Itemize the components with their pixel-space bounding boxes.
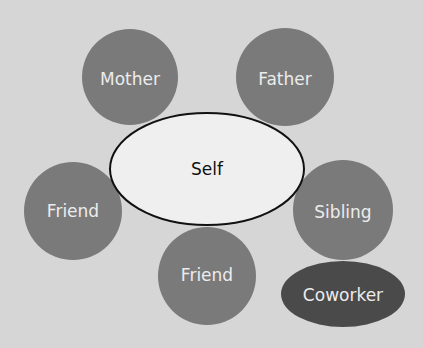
node-mother: Mother bbox=[82, 29, 178, 125]
node-coworker: Coworker bbox=[281, 261, 405, 327]
self-label: Self bbox=[191, 159, 224, 179]
node-sibling: Sibling bbox=[293, 160, 393, 260]
node-label: Father bbox=[258, 69, 312, 89]
node-father: Father bbox=[236, 28, 334, 126]
node-label: Mother bbox=[100, 69, 160, 89]
node-self: Self bbox=[110, 113, 304, 225]
node-label: Coworker bbox=[303, 285, 383, 305]
node-friend-bottom: Friend bbox=[158, 227, 256, 325]
node-friend-left: Friend bbox=[24, 162, 122, 260]
node-label: Friend bbox=[47, 201, 99, 221]
social-network-diagram: Mother Father Friend Sibling Friend Cowo… bbox=[0, 0, 423, 348]
node-label: Friend bbox=[181, 265, 233, 285]
node-label: Sibling bbox=[314, 202, 371, 222]
